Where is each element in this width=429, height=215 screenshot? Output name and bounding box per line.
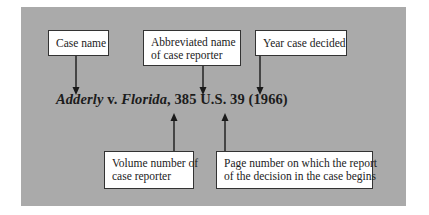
- arrows-layer: [0, 0, 429, 215]
- arrow-year-icon: [257, 56, 264, 95]
- arrow-page-icon: [222, 113, 229, 151]
- arrow-volume-icon: [171, 113, 178, 151]
- arrow-case-name-icon: [73, 56, 80, 95]
- arrow-reporter-icon: [200, 66, 207, 95]
